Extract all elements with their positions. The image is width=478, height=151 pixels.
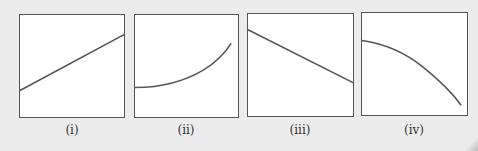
panel-iii	[247, 13, 354, 117]
panel-label-ii: (ii)	[131, 123, 241, 137]
graph-line-increasing	[20, 15, 124, 117]
graph-line-decreasing	[248, 14, 353, 116]
panel-i	[19, 14, 125, 118]
graph-curve-concave-down	[362, 13, 467, 115]
panel-label-iii: (iii)	[245, 123, 355, 137]
panel-ii	[134, 14, 239, 118]
panel-iv	[361, 12, 468, 116]
page-curl-shadow	[462, 137, 478, 151]
graph-curve-concave-up	[135, 15, 238, 117]
panel-label-iv: (iv)	[359, 123, 469, 137]
panel-label-i: (i)	[17, 123, 127, 137]
